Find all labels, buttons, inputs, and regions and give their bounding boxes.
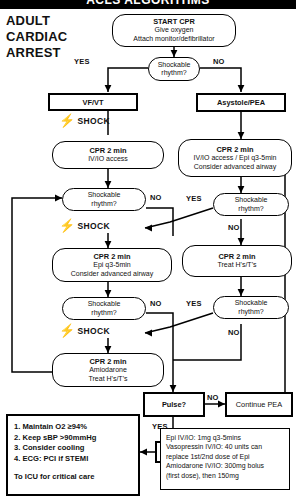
shock-label-1: SHOCK <box>77 116 110 126</box>
drug-dose-line: Epi IV/IO: 1mg q3-5mins <box>166 433 285 442</box>
lightning-bolt-icon: ⚡ <box>59 324 75 337</box>
decision-right-2-line1: Shockable <box>235 196 268 204</box>
decision-left-3-line2: rhythm? <box>91 309 116 317</box>
node-pulse[interactable]: Pulse? <box>143 392 205 417</box>
post-rosc-item: 1. Maintain O2 ≥94% <box>14 422 133 433</box>
node-cpr-left-1[interactable]: CPR 2 min IV/IO access <box>52 141 164 169</box>
cpr-left-1-line2: IV/IO access <box>88 155 128 164</box>
cpr-left-2-title: CPR 2 min <box>94 252 131 261</box>
node-cpr-left-3[interactable]: CPR 2 min Amiodarone Treat H's/T's <box>52 353 164 387</box>
cpr-right-2-line2: Treat H's/T's <box>218 261 257 270</box>
node-continue-pea[interactable]: Continue PEA <box>225 392 293 417</box>
decision-left-2-line1: Shockable <box>88 191 121 199</box>
decision-left-3-line1: Shockable <box>88 300 121 308</box>
post-rosc-footer: To ICU for critical care <box>14 472 133 483</box>
decision-shockable-right-3[interactable]: Shockable rhythm? <box>213 296 289 319</box>
start-line2: Give oxygen <box>155 26 194 35</box>
cpr-right-1-line3: Consider advanced airway <box>194 163 277 172</box>
post-rosc-item: 3. Consider cooling <box>14 443 133 454</box>
edge-label-no-right-3: NO <box>228 328 240 337</box>
post-rosc-item: 4. ECG: PCI if STEMI <box>14 454 133 465</box>
cpr-left-1-title: CPR 2 min <box>90 146 127 155</box>
node-vf-vt[interactable]: VF/VT <box>48 93 138 111</box>
edge-label-pulse-no: NO <box>207 393 219 402</box>
cpr-right-1-line2: IV/IO access / Epi q3-5min <box>194 154 277 163</box>
drug-dose-line: Amiodarone IV/IO: 300mg bolus <box>166 461 285 470</box>
lightning-bolt-icon: ⚡ <box>59 219 75 232</box>
drug-dose-line: replace 1st/2nd dose of Epi <box>166 452 285 461</box>
decision-shockable-left-2[interactable]: Shockable rhythm? <box>62 188 146 211</box>
cpr-right-2-title: CPR 2 min <box>219 252 256 261</box>
asystole-label: Asystole/PEA <box>217 98 265 107</box>
cpr-left-3-line3: Treat H's/T's <box>89 375 128 384</box>
edge-label-yes-1: YES <box>74 57 90 66</box>
node-start-cpr[interactable]: START CPR Give oxygen Attach monitor/def… <box>112 14 236 47</box>
cpr-left-3-line2: Amiodarone <box>89 366 127 375</box>
drug-dose-line: (first dose), then 150mg <box>166 471 285 480</box>
vfvt-label: VF/VT <box>83 98 104 107</box>
decision-shockable-1[interactable]: Shockable rhythm? <box>148 57 200 81</box>
shock-marker-3: ⚡ SHOCK <box>59 324 110 337</box>
continue-pea-label: Continue PEA <box>236 400 282 409</box>
shock-label-3: SHOCK <box>77 326 110 336</box>
edge-label-no-right-2: NO <box>228 223 240 232</box>
edge-label-no-left-2: NO <box>150 193 162 202</box>
node-cpr-left-2[interactable]: CPR 2 min Epi q3-5min Consider advanced … <box>52 248 172 282</box>
edge-label-no-1: NO <box>213 57 225 66</box>
decision-right-3-line2: rhythm? <box>238 308 263 316</box>
node-asystole-pea[interactable]: Asystole/PEA <box>196 93 286 112</box>
cpr-left-3-title: CPR 2 min <box>90 357 127 366</box>
post-rosc-care-box: 1. Maintain O2 ≥94% 2. Keep sBP >90mmHg … <box>6 414 140 496</box>
decision1-line2: rhythm? <box>161 69 186 77</box>
decision-left-2-line2: rhythm? <box>91 200 116 208</box>
decision-right-2-line2: rhythm? <box>238 205 263 213</box>
shock-marker-1: ⚡ SHOCK <box>59 114 110 127</box>
decision-shockable-left-3[interactable]: Shockable rhythm? <box>62 297 146 320</box>
start-title: START CPR <box>153 17 195 26</box>
node-cpr-right-1[interactable]: CPR 2 min IV/IO access / Epi q3-5min Con… <box>178 139 292 177</box>
post-rosc-item: 2. Keep sBP >90mmHg <box>14 433 133 444</box>
start-line3: Attach monitor/defibrillator <box>133 35 214 44</box>
lightning-bolt-icon: ⚡ <box>59 114 75 127</box>
edge-label-yes-right-3: YES <box>186 299 202 308</box>
pulse-label: Pulse? <box>162 400 186 409</box>
node-cpr-right-2[interactable]: CPR 2 min Treat H's/T's <box>182 245 292 277</box>
edge-label-no-left-3: NO <box>150 299 162 308</box>
edge-label-yes-right-2: YES <box>186 194 202 203</box>
cpr-left-2-line2: Epi q3-5min <box>93 261 130 270</box>
drug-dose-box: Epi IV/IO: 1mg q3-5mins Vasopressin IV/I… <box>160 428 290 490</box>
cpr-right-1-title: CPR 2 min <box>217 145 254 154</box>
cpr-left-2-line3: Consider advanced airway <box>71 270 154 279</box>
shock-label-2: SHOCK <box>77 221 110 231</box>
drug-dose-line: Vasopressin IV/IO: 40 units can <box>166 442 285 451</box>
decision1-line1: Shockable <box>158 61 191 69</box>
decision-right-3-line1: Shockable <box>235 299 268 307</box>
shock-marker-2: ⚡ SHOCK <box>59 219 110 232</box>
decision-shockable-right-2[interactable]: Shockable rhythm? <box>213 193 289 216</box>
